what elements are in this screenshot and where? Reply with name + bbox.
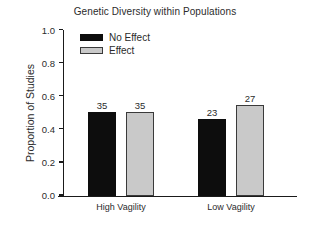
y-axis-tick-3: 0.6: [59, 95, 63, 96]
y-axis-tick-0: 0.0: [59, 194, 63, 195]
legend-item-no-effect: No Effect: [80, 31, 150, 44]
bar-value-high-vagility-effect: 35: [135, 100, 146, 111]
legend-label-effect: Effect: [109, 45, 134, 56]
chart-title: Genetic Diversity within Populations: [0, 6, 310, 17]
y-axis-tick-label-5: 1.0: [42, 24, 55, 35]
bar-low-vagility-no-effect: 23: [198, 119, 226, 196]
x-axis-category-label-high-vagility: High Vagility: [96, 202, 145, 212]
y-axis-tick-1: 0.2: [59, 161, 63, 162]
x-axis-line: [58, 196, 297, 197]
y-axis-label: Proportion of Studies: [24, 28, 36, 198]
y-axis-tick-label-1: 0.2: [42, 156, 55, 167]
y-axis-tick-label-0: 0.0: [42, 190, 55, 201]
y-axis-line: [63, 30, 64, 197]
legend-swatch-effect: [80, 47, 103, 54]
y-axis-tick-4: 0.8: [59, 62, 63, 63]
bar-value-low-vagility-effect: 27: [245, 93, 256, 104]
legend-label-no-effect: No Effect: [109, 32, 150, 43]
y-axis-tick-label-3: 0.6: [42, 90, 55, 101]
bar-high-vagility-effect: 35: [126, 112, 154, 196]
bar-chart-figure: Genetic Diversity within Populations Pro…: [0, 0, 310, 231]
y-axis-tick-5: 1.0: [59, 29, 63, 30]
y-axis-tick-label-2: 0.4: [42, 123, 55, 134]
y-axis-tick-label-4: 0.8: [42, 57, 55, 68]
legend-swatch-no-effect: [80, 34, 103, 41]
bar-high-vagility-no-effect: 35: [88, 112, 116, 196]
chart-legend: No Effect Effect: [80, 31, 150, 57]
bar-value-high-vagility-no-effect: 35: [97, 100, 108, 111]
x-axis-category-label-low-vagility: Low Vagility: [207, 202, 254, 212]
bar-value-low-vagility-no-effect: 23: [207, 107, 218, 118]
bar-low-vagility-effect: 27: [236, 105, 264, 195]
legend-item-effect: Effect: [80, 44, 150, 57]
y-axis-tick-2: 0.4: [59, 128, 63, 129]
